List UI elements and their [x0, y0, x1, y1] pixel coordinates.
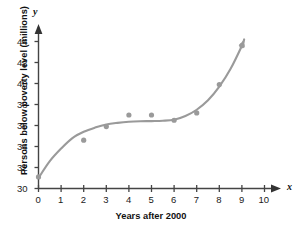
x-tick-label-0: 0 [36, 195, 41, 205]
x-tick-label-1: 1 [58, 195, 63, 205]
data-point [239, 43, 244, 48]
x-tick-label-8: 8 [216, 195, 221, 205]
data-point-group [36, 43, 245, 179]
x-axis-arrowhead [271, 185, 281, 193]
data-point [194, 110, 199, 115]
y-axis-title: Persons below poverty level (millions) [19, 45, 29, 175]
x-tick-label-9: 9 [239, 195, 244, 205]
x-tick-label-3: 3 [103, 195, 108, 205]
x-tick-label-6: 6 [171, 195, 176, 205]
data-point [36, 174, 41, 179]
data-point [217, 82, 222, 87]
x-tick-label-5: 5 [149, 195, 154, 205]
x-tick-label-2: 2 [81, 195, 86, 205]
y-axis-letter: y [33, 6, 37, 17]
x-axis-letter: x [287, 181, 292, 192]
data-point [172, 118, 177, 123]
fit-curve [39, 39, 245, 178]
y-tick-label-30: 30 [17, 184, 28, 194]
poverty-level-chart: 30 32 34 36 38 40 42 44 0 1 2 3 4 5 6 7 … [0, 0, 302, 233]
data-point [149, 112, 154, 117]
data-point [81, 138, 86, 143]
x-tick-label-4: 4 [126, 195, 131, 205]
y-axis-arrowhead [35, 24, 43, 34]
x-tick-label-7: 7 [194, 195, 199, 205]
data-point [126, 112, 131, 117]
data-point [104, 124, 109, 129]
x-tick-label-10: 10 [259, 195, 270, 205]
x-axis-title: Years after 2000 [0, 211, 302, 221]
